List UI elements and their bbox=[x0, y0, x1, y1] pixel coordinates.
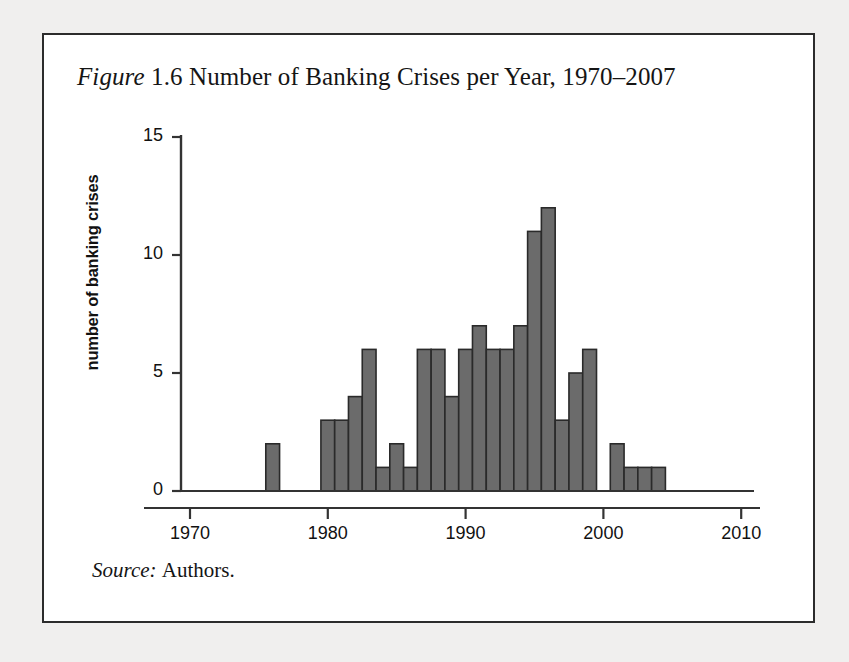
bar bbox=[486, 349, 500, 491]
y-tick-label: 15 bbox=[123, 125, 163, 146]
figure-panel: Figure 1.6 Number of Banking Crises per … bbox=[42, 33, 815, 623]
bar bbox=[445, 397, 459, 491]
bar bbox=[624, 467, 638, 491]
bar bbox=[472, 326, 486, 491]
y-tick-label: 5 bbox=[123, 361, 163, 382]
bar bbox=[321, 420, 335, 491]
bar bbox=[362, 349, 376, 491]
bar bbox=[583, 349, 597, 491]
y-tick-label: 10 bbox=[123, 243, 163, 264]
bar bbox=[335, 420, 349, 491]
bar bbox=[569, 373, 583, 491]
bar bbox=[638, 467, 652, 491]
x-tick-label: 1970 bbox=[155, 523, 225, 544]
source-note: Source: Authors. bbox=[92, 558, 235, 583]
chart-plot-area: number of banking crises 051015197019801… bbox=[44, 35, 817, 625]
source-value: Authors. bbox=[162, 558, 235, 582]
x-tick-label: 2010 bbox=[706, 523, 776, 544]
bar bbox=[652, 467, 666, 491]
x-tick-label: 1980 bbox=[293, 523, 363, 544]
bar bbox=[459, 349, 473, 491]
bar bbox=[514, 326, 528, 491]
bar bbox=[610, 444, 624, 491]
bar bbox=[348, 397, 362, 491]
bar bbox=[431, 349, 445, 491]
x-tick-label: 1990 bbox=[431, 523, 501, 544]
bar-series bbox=[266, 208, 666, 491]
bar bbox=[555, 420, 569, 491]
x-tick-label: 2000 bbox=[568, 523, 638, 544]
source-label: Source: bbox=[92, 558, 157, 582]
bar bbox=[417, 349, 431, 491]
bar bbox=[500, 349, 514, 491]
bar bbox=[266, 444, 280, 491]
y-axis-title: number of banking crises bbox=[83, 163, 102, 383]
bar bbox=[376, 467, 390, 491]
bar bbox=[390, 444, 404, 491]
bar bbox=[404, 467, 418, 491]
y-tick-label: 0 bbox=[123, 479, 163, 500]
bar bbox=[528, 231, 542, 491]
bar bbox=[541, 208, 555, 491]
